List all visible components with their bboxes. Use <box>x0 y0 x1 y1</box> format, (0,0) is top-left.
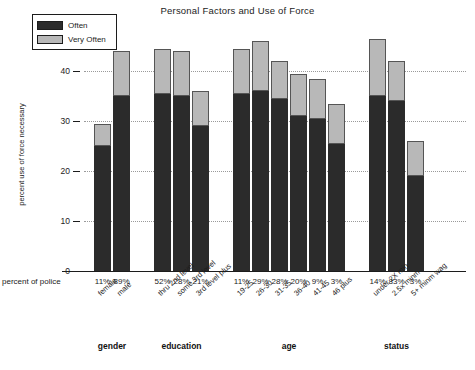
y-tick-mark-30 <box>73 121 80 122</box>
bar-segment-often <box>328 144 345 272</box>
bar-segment-often <box>388 101 405 271</box>
bar-segment-often <box>271 99 288 272</box>
y-tick-label-40: 40 <box>44 66 70 76</box>
bar-education-3rd-level-plus <box>192 91 209 271</box>
group-label-status: status <box>344 341 449 351</box>
legend-item-very-often: Very Often <box>37 32 112 46</box>
y-tick-label-10: 10 <box>44 216 70 226</box>
bar-gender-male <box>113 51 130 271</box>
bar-age-26-30 <box>252 41 269 271</box>
bar-segment-often <box>369 96 386 271</box>
legend-swatch-very-often-icon <box>37 35 63 44</box>
y-tick-mark-0 <box>73 271 80 272</box>
bar-segment-very-often <box>388 61 405 101</box>
bar-segment-often <box>290 116 307 271</box>
bar-segment-very-often <box>113 51 130 96</box>
bar-segment-very-often <box>94 124 111 147</box>
chart-container: Personal Factors and Use of Force Often … <box>0 0 475 370</box>
legend-swatch-often-icon <box>37 21 63 30</box>
y-tick-label-30: 30 <box>44 116 70 126</box>
bar-age-46-plus <box>328 104 345 272</box>
legend-label-often: Often <box>68 21 88 30</box>
y-axis-title: percent use of force necessary <box>17 65 26 245</box>
legend-label-very-often: Very Often <box>68 35 106 44</box>
chart-legend: Often Very Often <box>32 14 117 50</box>
y-tick-mark-10 <box>73 221 80 222</box>
bar-segment-very-often <box>192 91 209 126</box>
bar-age-41-45 <box>309 79 326 272</box>
bar-segment-often <box>192 126 209 271</box>
bar-segment-very-often <box>369 39 386 97</box>
y-tick-label-0: 0 <box>44 266 70 276</box>
bar-segment-often <box>154 94 171 272</box>
bar-segment-very-often <box>290 74 307 117</box>
bar-status-2-5x-minm <box>388 61 405 271</box>
bar-segment-often <box>94 146 111 271</box>
bar-age-36-40 <box>290 74 307 272</box>
bar-segment-often <box>407 176 424 271</box>
bar-segment-often <box>309 119 326 272</box>
bar-segment-often <box>113 96 130 271</box>
bar-segment-very-often <box>271 61 288 99</box>
bar-status-under-2x-min <box>369 39 386 272</box>
percent-of-police-row-label: percent of police <box>2 277 61 286</box>
bar-segment-very-often <box>309 79 326 119</box>
legend-item-often: Often <box>37 18 112 32</box>
bar-gender-female <box>94 124 111 272</box>
bar-segment-often <box>252 91 269 271</box>
bar-age-31-35 <box>271 61 288 271</box>
bar-segment-very-often <box>154 49 171 94</box>
bar-segment-very-often <box>328 104 345 144</box>
bar-segment-often <box>173 96 190 271</box>
bar-segment-often <box>233 94 250 272</box>
plot-area <box>84 41 466 271</box>
bar-education-some-3rd-level <box>173 51 190 271</box>
bar-age-19-25 <box>233 49 250 272</box>
bar-segment-very-often <box>407 141 424 176</box>
y-tick-mark-40 <box>73 71 80 72</box>
y-tick-label-20: 20 <box>44 166 70 176</box>
bar-segment-very-often <box>252 41 269 91</box>
bar-status-5-minm-wag <box>407 141 424 271</box>
y-tick-mark-20 <box>73 171 80 172</box>
bar-segment-very-often <box>173 51 190 96</box>
bar-segment-very-often <box>233 49 250 94</box>
bar-education-thru-2nd-level <box>154 49 171 272</box>
